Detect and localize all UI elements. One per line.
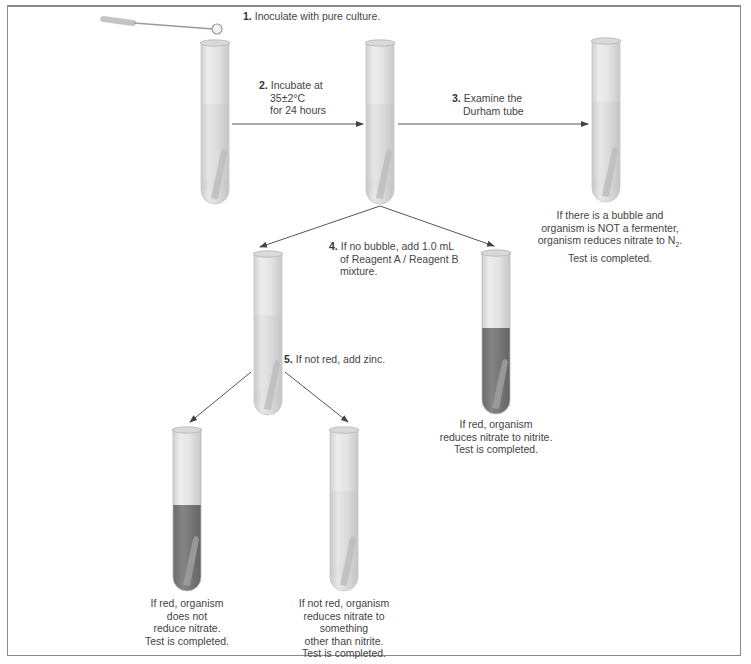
inoculating-loop-icon (100, 16, 222, 34)
step-4-label: 4.If no bubble, add 1.0 mL of Reagent A … (329, 240, 459, 278)
test-tube-incubated (365, 40, 395, 204)
test-tube-red-nitrite (481, 250, 511, 414)
outcome-n2-label: If there is a bubble and organism is NOT… (530, 209, 690, 264)
step-2-label: 2.Incubate at 35±2°C for 24 hours (259, 79, 326, 117)
test-tube-red-zinc (172, 427, 202, 591)
test-tube-not-red-zinc (329, 427, 359, 591)
step-1-label: 1.Inoculate with pure culture. (243, 10, 380, 23)
test-tube-inoculated (200, 40, 230, 204)
outcome-other-label: If not red, organism reduces nitrate to … (284, 597, 404, 660)
step-3-label: 3.Examine the Durham tube (452, 92, 524, 117)
outcome-no-reduction-label: If red, organism does not reduce nitrate… (127, 597, 247, 647)
step-5-label: 5.If not red, add zinc. (284, 353, 385, 366)
arrow-to-not-red-zinc-tube (285, 372, 348, 422)
test-tube-durham (591, 38, 621, 202)
outcome-nitrite-label: If red, organism reduces nitrate to nitr… (426, 418, 566, 456)
arrow-to-red-zinc-tube (190, 372, 251, 422)
test-tube-reagent-added (253, 251, 283, 415)
flowchart-graphics (0, 0, 751, 664)
